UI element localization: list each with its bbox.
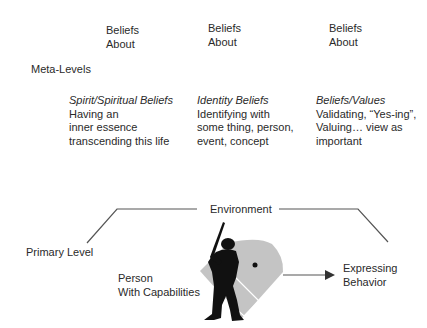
person-label-line1: Person (118, 272, 200, 286)
primary-level-label: Primary Level (26, 246, 93, 260)
environment-bracket-left (87, 209, 197, 243)
ball-icon (253, 263, 258, 268)
behavior-label: Expressing Behavior (343, 262, 397, 289)
environment-label: Environment (210, 203, 272, 217)
environment-bracket-right (279, 209, 388, 242)
behavior-arrowhead-icon (325, 270, 335, 280)
person-label: Person With Capabilities (118, 272, 200, 299)
behavior-label-line2: Behavior (343, 276, 397, 290)
behavior-label-line1: Expressing (343, 262, 397, 276)
person-label-line2: With Capabilities (118, 286, 200, 300)
